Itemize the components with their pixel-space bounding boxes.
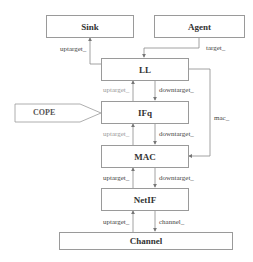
edge-mac-netif-label: downtarget_ [159,174,194,182]
edge-agent-ll-label: target_ [206,44,225,52]
edge-channel-netif-label: uptarget_ [103,218,129,226]
node-ll: LL [101,58,189,81]
node-agent: Agent [154,15,245,38]
edge-netif-mac-label: uptarget_ [103,174,129,182]
node-mac: MAC [101,145,189,168]
node-cope-label: COPE [33,108,55,117]
node-channel-label: Channel [130,236,163,246]
node-netif: NetIF [101,188,189,211]
edge-ll-mac-label: mac_ [214,114,229,122]
node-sink: Sink [46,15,134,38]
edge-netif-channel-label: channel_ [159,218,184,226]
node-ifq-label: IFq [138,108,152,118]
node-channel: Channel [59,232,233,250]
node-ifq: IFq [101,101,189,124]
node-mac-label: MAC [134,152,156,162]
node-sink-label: Sink [81,22,99,32]
node-agent-label: Agent [188,22,211,32]
edge-ll-ifq-label: downtarget_ [159,86,194,94]
edge-ifq-ll-label: uptarget_ [103,86,129,94]
node-netif-label: NetIF [134,195,157,205]
cope-arrow-shape [15,104,101,122]
node-ll-label: LL [139,65,151,75]
edge-mac-ifq-label: uptarget_ [103,130,129,138]
edge-ifq-mac-label: downtarget_ [159,130,194,138]
edge-ll-sink-label: uptarget_ [60,45,86,53]
